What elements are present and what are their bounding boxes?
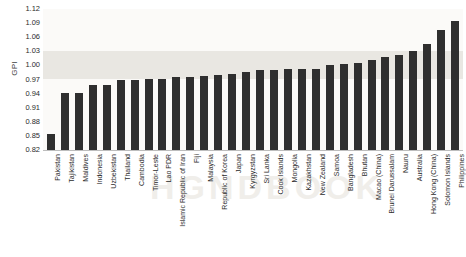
bar-slot <box>86 9 100 150</box>
bar-slot <box>239 9 253 150</box>
bar[interactable] <box>312 69 320 150</box>
bar[interactable] <box>228 74 236 150</box>
bar-slot <box>392 9 406 150</box>
bar[interactable] <box>117 80 125 150</box>
bar-slot <box>253 9 267 150</box>
bar-slot <box>365 9 379 150</box>
x-label-slot: Fiji <box>183 152 197 256</box>
bar[interactable] <box>437 30 445 150</box>
x-label-slot: Solomon Islands <box>434 152 448 256</box>
x-label-slot: Hong Kong (China) <box>420 152 434 256</box>
y-axis-tick: 0.88 <box>16 118 40 126</box>
bar-slot <box>448 9 462 150</box>
x-label-slot: Bhutan <box>351 152 365 256</box>
x-label-slot: Australia <box>406 152 420 256</box>
x-label-slot: Kazakhstan <box>295 152 309 256</box>
x-label-slot: Indonesia <box>86 152 100 256</box>
x-label-slot: Pakistan <box>44 152 58 256</box>
y-axis-tick: 1.09 <box>16 19 40 27</box>
y-axis-tick: 0.85 <box>16 132 40 140</box>
bar[interactable] <box>47 134 55 150</box>
bar[interactable] <box>200 76 208 150</box>
bar-slot <box>142 9 156 150</box>
bar-slot <box>58 9 72 150</box>
bar[interactable] <box>298 69 306 150</box>
x-label-slot: Kyrgyzstan <box>239 152 253 256</box>
bar-slot <box>100 9 114 150</box>
bar-slot <box>183 9 197 150</box>
x-label-slot: Uzbekistan <box>100 152 114 256</box>
y-axis-tick: 1.12 <box>16 5 40 13</box>
x-label-slot: Timor-Leste <box>142 152 156 256</box>
x-label-slot: Lao PDR <box>156 152 170 256</box>
bar[interactable] <box>284 69 292 150</box>
bar[interactable] <box>381 57 389 150</box>
x-axis-baseline <box>43 150 463 151</box>
bar-slot <box>337 9 351 150</box>
bar[interactable] <box>75 93 83 150</box>
bar[interactable] <box>326 65 334 150</box>
x-label-slot: Malaysia <box>197 152 211 256</box>
bar-slot <box>211 9 225 150</box>
bar-slot <box>44 9 58 150</box>
bar[interactable] <box>409 51 417 150</box>
bar-slot <box>169 9 183 150</box>
x-axis-category-labels: PakistanTajikistanMaldivesIndonesiaUzbek… <box>43 152 463 256</box>
y-axis-tick-labels: 1.121.091.061.031.000.970.940.910.880.85… <box>16 0 40 257</box>
y-axis-tick: 1.06 <box>16 33 40 41</box>
plot-area <box>43 9 463 150</box>
x-label-slot: New Zealand <box>309 152 323 256</box>
y-axis-tick: 0.94 <box>16 90 40 98</box>
bar[interactable] <box>214 75 222 150</box>
x-label-slot: Philippines <box>448 152 462 256</box>
bar-slot <box>225 9 239 150</box>
x-label-slot: Brunei Darussalam <box>379 152 393 256</box>
bar[interactable] <box>131 80 139 150</box>
x-label-slot: Islamic Republic of Iran <box>169 152 183 256</box>
bar[interactable] <box>256 70 264 150</box>
bar[interactable] <box>368 60 376 150</box>
x-label-slot: Sri Lanka <box>253 152 267 256</box>
bar[interactable] <box>242 72 250 150</box>
y-axis-tick: 0.97 <box>16 76 40 84</box>
bar[interactable] <box>354 63 362 150</box>
bar[interactable] <box>395 55 403 150</box>
x-label-slot: Samoa <box>323 152 337 256</box>
bar-slot <box>420 9 434 150</box>
bar-slot <box>379 9 393 150</box>
x-axis-category-label: Philippines <box>458 154 465 188</box>
x-label-slot: Thailand <box>114 152 128 256</box>
bar-slot <box>128 9 142 150</box>
bar-slot <box>72 9 86 150</box>
x-label-slot: Bangladesh <box>337 152 351 256</box>
bar[interactable] <box>451 21 459 150</box>
x-label-slot: Tajikistan <box>58 152 72 256</box>
bar-slot <box>351 9 365 150</box>
bar[interactable] <box>103 85 111 150</box>
x-label-slot: Republic of Korea <box>211 152 225 256</box>
x-label-slot: Mongolia <box>281 152 295 256</box>
bar[interactable] <box>340 64 348 150</box>
bar-slot <box>281 9 295 150</box>
x-label-slot: Japan <box>225 152 239 256</box>
bar[interactable] <box>270 70 278 150</box>
bar[interactable] <box>423 44 431 150</box>
gpi-bar-chart: HGNDBOOK GPI 1.121.091.061.031.000.970.9… <box>0 0 466 257</box>
x-label-slot: Cambodia <box>128 152 142 256</box>
bar[interactable] <box>89 85 97 150</box>
bar[interactable] <box>61 93 69 150</box>
bar-slot <box>406 9 420 150</box>
bar[interactable] <box>145 79 153 150</box>
bar-slot <box>114 9 128 150</box>
y-axis-tick: 0.91 <box>16 104 40 112</box>
bar-slot <box>323 9 337 150</box>
bar-slot <box>434 9 448 150</box>
x-label-slot: Cook Islands <box>267 152 281 256</box>
y-axis-tick: 1.03 <box>16 47 40 55</box>
bar[interactable] <box>186 77 194 150</box>
y-axis-tick: 0.82 <box>16 146 40 154</box>
bar[interactable] <box>158 79 166 150</box>
bar[interactable] <box>172 77 180 150</box>
y-axis-tick: 1.00 <box>16 61 40 69</box>
x-label-slot: Macao (China) <box>365 152 379 256</box>
